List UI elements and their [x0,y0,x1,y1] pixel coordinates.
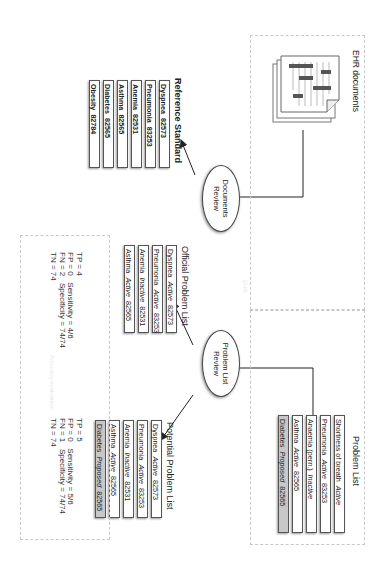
list-item: Anemia 82531 [131,80,142,168]
list-item: Shortness of breath Active [334,415,345,533]
documents-review-node: Documents Review [202,165,240,232]
official-problem-list: Dyspnea Active 82573 Pneumonia Active 83… [124,245,177,333]
fn-row: FN = 2 Specificity = 74/74 [58,252,67,372]
list-item: Asthma Active 82565 [109,420,120,518]
fp-value: FP = 0 [67,252,76,276]
fn-value: FN = 2 [58,252,67,276]
ehr-documents-label: EHR documents [351,50,361,112]
tp-value: TP = 5 [75,418,84,538]
tn-value: TN = 74 [49,252,58,372]
diagram-canvas: EHR documents Problem List Shortness of … [0,0,383,578]
list-item: Asthma 82565 [117,80,128,168]
list-item: Dyspnea Active 82573 [166,245,177,333]
tp-value: TP = 4 [75,252,84,372]
stats-official: TP = 4 FP = 0 Sensitivity = 4/6 FN = 2 S… [49,252,83,372]
fp-value: FP = 0 [67,418,76,442]
fp-row: FP = 0 Sensitivity = 5/6 [66,418,75,538]
problem-list-review-node: Problem List Review [202,330,240,397]
documents-review-label: Documents [221,180,230,218]
reference-standard-title: Reference Standard [173,78,183,163]
list-item: Anaemia (pern.) Inactive [306,415,317,533]
list-item: Pneumonia 83253 [145,80,156,168]
document-stack-icon [263,50,343,130]
list-item: Diabetes 82565 [103,80,114,168]
fn-row: FN = 1 Specificity = 74/74 [58,418,67,538]
potential-problem-list-title: Potential Problem List [165,422,175,510]
problem-list-title: Problem List [351,436,361,486]
tn-value: TN = 74 [49,418,58,538]
fp-row: FP = 0 Sensitivity = 4/6 [66,252,75,372]
reference-standard-list: Dyspnea 82573 Pneumonia 83253 Anemia 825… [89,80,170,168]
specificity-value: Specificity = 74/74 [58,283,67,348]
list-item: Pneumonia Active 83253 [137,420,148,518]
list-item: Anemia Inactive 82531 [138,245,149,333]
sensitivity-value: Sensitivity = 4/6 [67,282,76,338]
list-item: Diabetes Proposed 82565 [278,415,289,533]
sensitivity-value: Sensitivity = 5/6 [67,448,76,504]
list-item: Dyspnea Active 82573 [151,420,162,518]
list-item: Pneumonia Active 83253 [320,415,331,533]
problem-list-items: Shortness of breath Active Pneumonia Act… [278,415,345,533]
official-problem-list-title: Official Problem List [180,246,190,326]
list-item: Pneumonia Active 83253 [152,245,163,333]
list-item: Asthma Active 82565 [124,245,135,333]
stats-potential: TP = 5 FP = 0 Sensitivity = 5/6 FN = 1 S… [49,418,83,538]
specificity-value: Specificity = 74/74 [58,449,67,514]
problem-list-review-label-2: Review [212,351,221,376]
documents-review-label-2: Review [212,186,221,211]
problem-list-review-label: Problem List [221,343,230,385]
list-item: Dyspnea 82573 [159,80,170,168]
faint-label: EHR [242,280,248,293]
list-item: Obesity 82784 [89,80,100,168]
fn-value: FN = 1 [58,418,67,442]
list-item: Anemia Inactive 82531 [123,420,134,518]
list-item: Asthma Active 82565 [292,415,303,533]
